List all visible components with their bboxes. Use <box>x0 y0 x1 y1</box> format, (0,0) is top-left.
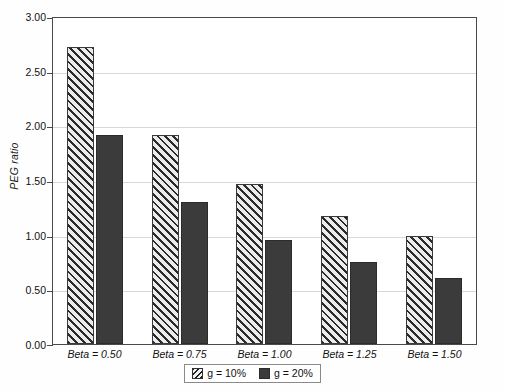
y-axis-tick-label: 2.50 <box>10 67 46 78</box>
x-axis-tick-label: Beta = 0.50 <box>52 348 137 360</box>
bar[interactable] <box>406 236 433 344</box>
bar-group <box>138 18 223 344</box>
legend-item[interactable]: g = 20% <box>259 367 313 379</box>
bar[interactable] <box>181 202 208 344</box>
bar-group <box>391 18 476 344</box>
legend-label: g = 10% <box>207 367 246 379</box>
bar[interactable] <box>67 47 94 344</box>
bar[interactable] <box>236 184 263 344</box>
bars-layer <box>53 18 476 344</box>
x-axis-tick-label: Beta = 1.00 <box>222 348 307 360</box>
x-axis-tick-label: Beta = 1.25 <box>307 348 392 360</box>
bar[interactable] <box>321 216 348 344</box>
plot-area <box>52 17 477 345</box>
y-axis-tick-label: 0.00 <box>10 340 46 351</box>
bar[interactable] <box>435 278 462 344</box>
y-axis-tick-label: 2.00 <box>10 121 46 132</box>
legend-swatch-icon <box>259 368 270 379</box>
bar-group <box>307 18 392 344</box>
bar[interactable] <box>265 240 292 344</box>
legend-item[interactable]: g = 10% <box>192 367 246 379</box>
bar-chart: PEG ratio 0.000.501.001.502.002.503.00 B… <box>0 0 505 391</box>
bar-group <box>53 18 138 344</box>
x-axis-tick-labels: Beta = 0.50Beta = 0.75Beta = 1.00Beta = … <box>52 348 477 360</box>
legend: g = 10%g = 20% <box>0 364 505 383</box>
y-axis-tickmark <box>47 345 53 346</box>
x-axis-tick-label: Beta = 0.75 <box>137 348 222 360</box>
bar[interactable] <box>96 135 123 344</box>
legend-swatch-icon <box>192 368 203 379</box>
y-axis-tick-labels: 0.000.501.001.502.002.503.00 <box>8 0 46 391</box>
y-axis-tick-label: 3.00 <box>10 12 46 23</box>
bar-group <box>222 18 307 344</box>
legend-box: g = 10%g = 20% <box>184 364 321 383</box>
y-axis-tick-label: 0.50 <box>10 285 46 296</box>
bar[interactable] <box>350 262 377 344</box>
y-axis-tick-label: 1.00 <box>10 231 46 242</box>
y-axis-tick-label: 1.50 <box>10 176 46 187</box>
x-axis-tick-label: Beta = 1.50 <box>392 348 477 360</box>
legend-label: g = 20% <box>274 367 313 379</box>
bar[interactable] <box>152 135 179 344</box>
